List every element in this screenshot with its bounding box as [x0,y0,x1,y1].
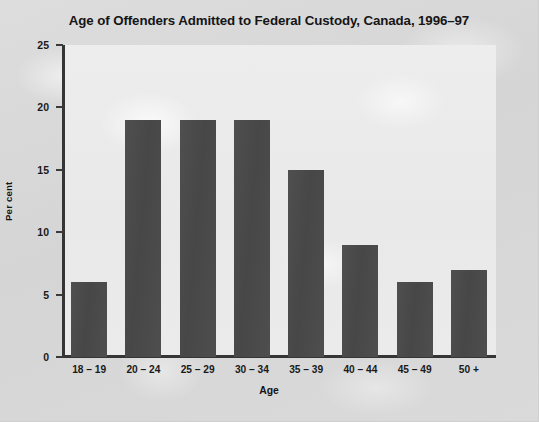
chart-figure: Age of Offenders Admitted to Federal Cus… [0,0,539,422]
bar[interactable] [342,245,378,357]
bar[interactable] [397,282,433,357]
bar[interactable] [288,170,324,357]
bar-slot [442,45,496,357]
bar[interactable] [71,282,107,357]
bar[interactable] [180,120,216,357]
chart-title: Age of Offenders Admitted to Federal Cus… [0,13,538,28]
bars-group [62,45,496,357]
y-axis-tick-label: 10 [19,226,49,238]
y-axis-tick-label: 20 [19,101,49,113]
y-axis-title: Per cent [3,182,14,221]
bar-slot [388,45,442,357]
bar-slot [116,45,170,357]
bar-slot [171,45,225,357]
y-axis-tick-label: 15 [19,164,49,176]
bar-slot [333,45,387,357]
x-axis-tick-label: 50 + [434,364,504,375]
y-axis-tick-label: 0 [19,351,49,363]
bar-slot [62,45,116,357]
bar-slot [225,45,279,357]
y-axis-tick-label: 25 [19,39,49,51]
bar[interactable] [234,120,270,357]
bar[interactable] [125,120,161,357]
x-axis-title: Age [0,385,538,396]
bar-slot [279,45,333,357]
bar[interactable] [451,270,487,357]
y-axis-tick-label: 5 [19,289,49,301]
